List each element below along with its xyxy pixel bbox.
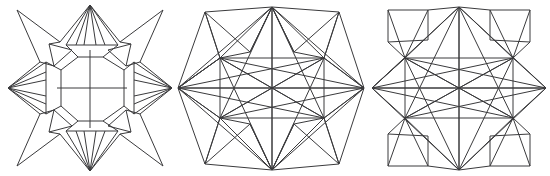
panel-1-drawing <box>0 0 178 176</box>
panel-3-axis-lines <box>372 7 546 170</box>
panel-1-right-fan <box>134 62 172 114</box>
figure-panel-1 <box>0 0 178 176</box>
panel-1-axis-cross <box>57 50 127 128</box>
panel-2-axis-lines <box>178 7 364 170</box>
panel-3-drawing <box>368 0 550 176</box>
panel-1-inner-octagon <box>61 57 124 121</box>
figure-root: Three geometric star-polygon line networ… <box>0 0 550 176</box>
panel-2-drawing <box>172 0 368 176</box>
figure-panel-3 <box>368 0 550 176</box>
figure-panel-2 <box>172 0 368 176</box>
panel-1-left-fan <box>8 62 46 114</box>
